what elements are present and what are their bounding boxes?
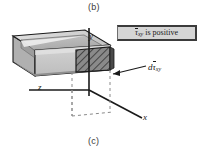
legend-tail-text: is positive (143, 28, 178, 37)
element-right-cap (110, 47, 114, 70)
legend-tau-symbol: τ (135, 29, 138, 37)
axis-label-y: y (89, 31, 93, 41)
axis-label-x: x (143, 112, 147, 122)
callout-leader-line (113, 66, 146, 76)
hatched-differential-element (76, 47, 110, 72)
legend-text: τxy is positive (135, 29, 178, 37)
figure-part-label-b: (b) (88, 2, 100, 12)
callout-tau-symbol: τ (153, 62, 156, 72)
callout-tau-subscript: xy (156, 66, 161, 72)
callout-label-dtau: dτxy (148, 62, 161, 72)
axis-label-z: z (38, 82, 42, 92)
figure-part-label-c: (c) (88, 136, 99, 146)
dashed-projection-lines (72, 70, 113, 116)
shear-stress-beam-figure (0, 0, 203, 154)
legend-box: τxy is positive (117, 25, 197, 41)
